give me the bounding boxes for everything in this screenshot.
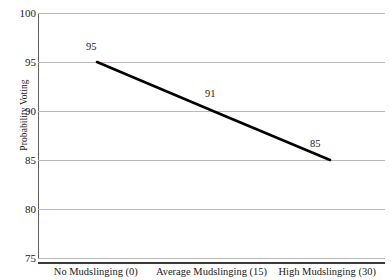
y-tick-label: 80 [2, 204, 36, 215]
data-label-point-1: 95 [86, 42, 97, 53]
y-tick-label: 100 [2, 8, 36, 19]
x-tick-label-average-mudslinging: Average Mudslinging (15) [154, 265, 270, 280]
y-tick-label: 95 [2, 57, 36, 68]
y-axis-tick-labels: 100 95 90 85 80 75 [0, 0, 36, 280]
plot-area: 95 91 85 [38, 13, 385, 258]
x-axis-line [38, 262, 385, 264]
y-tick-label: 75 [2, 253, 36, 264]
y-tick-label: 85 [2, 155, 36, 166]
line-chart: Probability Voting 100 95 90 85 80 75 95… [0, 0, 391, 280]
y-tick-label: 90 [2, 106, 36, 117]
gridline-75 [38, 258, 385, 259]
x-axis-tick-labels: No Mudslinging (0) Average Mudslinging (… [38, 265, 385, 280]
x-tick-label-no-mudslinging: No Mudslinging (0) [38, 265, 154, 280]
data-label-point-2: 91 [205, 89, 216, 100]
data-label-point-3: 85 [310, 139, 321, 150]
x-tick-label-high-mudslinging: High Mudslinging (30) [269, 265, 385, 280]
